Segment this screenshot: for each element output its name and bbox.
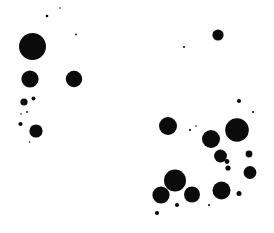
scatter-plot-canvas <box>0 0 274 233</box>
scatter-dot <box>155 211 159 215</box>
scatter-dot <box>19 33 46 60</box>
scatter-dot <box>20 113 22 115</box>
scatter-dot <box>213 182 231 200</box>
scatter-dot <box>183 46 185 48</box>
scatter-dot <box>202 130 220 148</box>
plot-background <box>0 0 274 233</box>
scatter-dot <box>66 71 82 87</box>
scatter-dot <box>225 159 230 164</box>
scatter-dot <box>164 170 186 192</box>
scatter-dot <box>32 97 36 101</box>
scatter-dot <box>237 191 242 196</box>
scatter-dot <box>208 204 210 206</box>
scatter-dot <box>195 125 197 127</box>
scatter-dot <box>189 129 191 131</box>
scatter-dot <box>75 34 77 36</box>
scatter-dot <box>21 70 38 87</box>
scatter-dot <box>252 111 254 113</box>
scatter-dot <box>152 186 169 203</box>
scatter-dot <box>26 111 28 113</box>
scatter-dot <box>237 99 241 103</box>
scatter-dot <box>159 117 177 135</box>
scatter-dot <box>29 124 42 137</box>
scatter-dot <box>59 7 61 9</box>
scatter-dot <box>29 141 31 143</box>
scatter-dot <box>175 203 179 207</box>
dot-scatter-svg <box>0 0 274 233</box>
scatter-dot <box>212 29 223 40</box>
scatter-dot <box>244 166 257 179</box>
scatter-dot <box>18 122 22 126</box>
scatter-dot <box>20 98 27 105</box>
scatter-dot <box>184 187 200 203</box>
scatter-dot <box>46 15 49 18</box>
scatter-dot <box>225 118 249 142</box>
scatter-dot <box>246 151 253 158</box>
scatter-dot <box>225 165 230 170</box>
